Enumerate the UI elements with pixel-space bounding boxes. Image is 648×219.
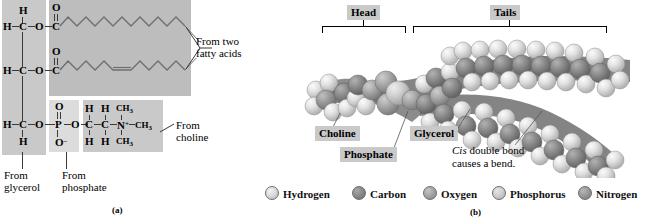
glycerol-c1-h-top: H — [19, 5, 28, 16]
tails-label: Tails — [490, 5, 520, 20]
tails-bracket-tick — [509, 19, 510, 27]
head-bracket-tick — [363, 19, 364, 27]
head-bracket — [322, 26, 406, 33]
label-from-glycerol: From glycerol — [4, 169, 40, 193]
phosphate-o-right: O — [71, 119, 80, 130]
glycerol-c3-h-left: H — [3, 119, 12, 130]
choline-ch3-bottom-sub: 3 — [130, 140, 134, 148]
glycerol-c3: C — [19, 119, 27, 130]
choline-h-bot-2: H — [101, 136, 110, 147]
phosphate-leader — [66, 152, 67, 169]
bond-cholinec1-c2 — [94, 124, 101, 125]
bond-c3-o3 — [28, 124, 35, 125]
phosphate-o-double: O — [55, 101, 64, 112]
glycerol-leader — [22, 152, 23, 169]
legend-label-carbon: Carbon — [370, 188, 406, 200]
bond-h-c1 — [12, 26, 19, 27]
bond-p-o — [64, 124, 71, 125]
glycerol-o1: O — [35, 21, 44, 32]
bond-o2-ester2 — [45, 70, 52, 71]
legend-item-hydrogen: Hydrogen — [265, 186, 330, 200]
bond-n-ch3bot — [121, 130, 122, 135]
legend-label-hydrogen: Hydrogen — [283, 188, 330, 200]
phosphate-o-minus: O– — [55, 136, 67, 148]
bond-cholinec2-n — [110, 124, 117, 125]
glycerol-c3-h-bottom: H — [19, 136, 28, 147]
choline-ch3-bottom: CH3 — [116, 136, 133, 150]
choline-c2: C — [101, 119, 109, 130]
bond-h-c2 — [12, 70, 19, 71]
glycerol-o3: O — [35, 119, 44, 130]
bond-o1-ester1 — [45, 26, 52, 27]
legend-item-phosphorus: Phosphorus — [492, 186, 566, 200]
tails-bracket — [413, 26, 607, 33]
cis-rest: double bond — [467, 144, 524, 156]
choline-h-top-1: H — [85, 103, 94, 114]
phosphate-o-minus-label: O — [55, 136, 64, 148]
legend-item-oxygen: Oxygen — [423, 186, 477, 200]
panel-a-chemical-structure: H H C O O C H C O O C — [0, 0, 300, 219]
legend-item-carbon: Carbon — [352, 186, 406, 200]
choline-ch3-right: CH3 — [135, 120, 152, 134]
legend-item-nitrogen: Nitrogen — [578, 186, 637, 200]
legend-label-oxygen: Oxygen — [441, 188, 477, 200]
glycerol-c2: C — [19, 65, 27, 76]
label-from-two-fatty-acids: From two fatty acids — [196, 35, 242, 59]
carbon-ball-icon — [352, 186, 366, 200]
cis-italic: Cis — [452, 144, 467, 156]
glycerol-c2-h-left: H — [3, 65, 12, 76]
fatty-acid-chain-1 — [58, 14, 206, 48]
choline-c1: C — [85, 119, 93, 130]
nitrogen-ball-icon — [578, 186, 592, 200]
glycerol-o2: O — [35, 65, 44, 76]
glycerol-callout-label: Glycerol — [410, 126, 458, 141]
bond-c1-c2 — [22, 32, 23, 67]
choline-callout-label: Choline — [315, 126, 360, 141]
legend-label-nitrogen: Nitrogen — [596, 188, 637, 200]
bond-h-c3 — [12, 124, 19, 125]
glycerol-c1-h-left: H — [3, 21, 12, 32]
cis-double-bond-note: Cis double bond causes a bend. — [452, 144, 524, 169]
bond-c2-o2 — [28, 70, 35, 71]
fatty-acid-chain-2 — [58, 58, 206, 92]
choline-h-bot-1: H — [85, 136, 94, 147]
choline-ch3-top: CH3 — [116, 103, 133, 117]
head-label: Head — [347, 5, 380, 20]
phospholipid-figure: H H C O O C H C O O C — [0, 0, 648, 219]
glycerol-c1: C — [19, 21, 27, 32]
phosphorus-atom: P — [55, 119, 62, 130]
nitrogen-atom: N+ — [117, 119, 129, 131]
hydrogen-ball-icon — [265, 186, 279, 200]
choline-ch3-top-sub: 3 — [130, 107, 134, 115]
phosphorus-ball-icon — [492, 186, 506, 200]
choline-h-top-2: H — [101, 103, 110, 114]
ester2-o-double: O — [52, 46, 61, 57]
panel-b-letter: (b) — [470, 207, 481, 217]
choline-ch3-top-label: CH — [116, 103, 130, 113]
label-from-choline: From choline — [176, 119, 208, 143]
choline-ch3-right-sub: 3 — [149, 124, 153, 132]
legend-label-phosphorus: Phosphorus — [510, 188, 566, 200]
bond-o3-p — [45, 124, 55, 125]
phosphate-callout-label: Phosphate — [340, 147, 397, 162]
cis-line2: causes a bend. — [452, 157, 515, 169]
choline-ch3-right-label: CH — [135, 120, 149, 130]
ester1-o-double: O — [52, 2, 61, 13]
bond-c2-c3 — [22, 76, 23, 121]
panel-a-letter: (a) — [112, 205, 123, 215]
phosphate-charge: – — [64, 137, 68, 145]
choline-ch3-bottom-label: CH — [116, 136, 130, 146]
label-from-phosphate: From phosphate — [62, 169, 107, 193]
bond-c1-o1 — [28, 26, 35, 27]
oxygen-ball-icon — [423, 186, 437, 200]
